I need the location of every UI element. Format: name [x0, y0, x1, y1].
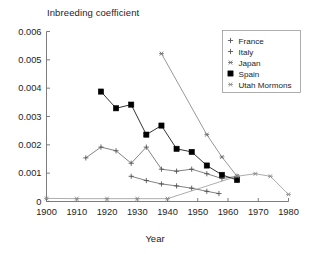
svg-text:1900: 1900	[36, 207, 57, 217]
svg-text:1970: 1970	[248, 207, 269, 217]
svg-text:0.003: 0.003	[18, 112, 41, 122]
svg-text:1940: 1940	[157, 207, 178, 217]
svg-text:0.001: 0.001	[18, 168, 41, 178]
svg-text:0.005: 0.005	[18, 55, 41, 65]
series-spain	[98, 89, 239, 183]
chart-canvas: 00.0010.0020.0030.0040.0050.006 19001910…	[0, 0, 310, 254]
y-axis-ticks: 00.0010.0020.0030.0040.0050.006	[18, 27, 50, 207]
chart-figure: Inbreeding coefficient Year 00.0010.0020…	[0, 0, 310, 254]
x-axis-ticks: 190019101920193019401950196019701980	[36, 198, 299, 217]
legend-label-1: Italy	[239, 48, 255, 57]
chart-legend: FranceItalyJapanSpainUtah Mormons	[223, 31, 301, 93]
svg-text:1950: 1950	[187, 207, 208, 217]
series-italy	[83, 145, 239, 182]
legend-label-4: Utah Mormons	[239, 81, 292, 90]
svg-text:0.006: 0.006	[18, 27, 41, 37]
legend-label-3: Spain	[239, 70, 260, 79]
svg-text:0.004: 0.004	[18, 83, 41, 93]
svg-text:1980: 1980	[278, 207, 299, 217]
svg-text:1920: 1920	[97, 207, 118, 217]
svg-text:0: 0	[36, 197, 41, 207]
svg-text:1910: 1910	[66, 207, 87, 217]
series-france	[129, 174, 222, 196]
series-utah-mormons	[44, 172, 291, 201]
svg-text:1960: 1960	[218, 207, 239, 217]
legend-label-2: Japan	[239, 59, 261, 68]
svg-text:1930: 1930	[127, 207, 148, 217]
legend-label-0: France	[239, 37, 265, 46]
svg-text:0.002: 0.002	[18, 140, 41, 150]
